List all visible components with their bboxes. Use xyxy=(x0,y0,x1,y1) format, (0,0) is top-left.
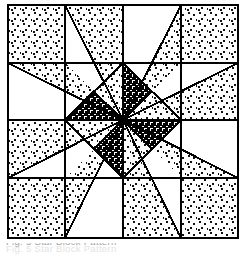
quilt-block-figure xyxy=(0,0,250,243)
figure-caption: Fig. 5 Star Block Pattern xyxy=(6,243,116,247)
page-root: Fig. 5 Star Block Pattern Fig. 5 Star Bl… xyxy=(0,0,250,257)
quilt-block-svg xyxy=(0,0,250,243)
corner-square-bottom-right xyxy=(181,178,238,238)
corner-square-top-right xyxy=(181,5,238,63)
figure-caption-strip: Fig. 5 Star Block Pattern Fig. 5 Star Bl… xyxy=(0,243,250,257)
corner-square-top-left xyxy=(8,5,65,63)
corner-square-bottom-left xyxy=(8,178,65,238)
